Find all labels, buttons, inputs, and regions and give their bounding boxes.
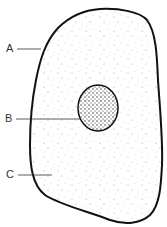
label-b: B (5, 113, 12, 124)
label-a: A (6, 43, 13, 54)
nucleus (78, 85, 118, 131)
cell-diagram (0, 0, 167, 227)
label-c: C (6, 169, 14, 180)
